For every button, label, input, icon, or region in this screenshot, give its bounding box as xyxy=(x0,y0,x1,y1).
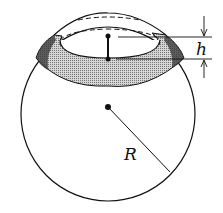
sphere-zone-diagram: h R xyxy=(0,0,223,213)
radius-line xyxy=(108,107,170,172)
radius-label: R xyxy=(123,144,137,164)
cap-ellipse-back xyxy=(78,17,140,20)
cap-outline xyxy=(54,13,166,35)
height-label: h xyxy=(196,39,207,59)
height-bottom-point xyxy=(106,57,111,62)
height-top-point xyxy=(106,34,111,39)
